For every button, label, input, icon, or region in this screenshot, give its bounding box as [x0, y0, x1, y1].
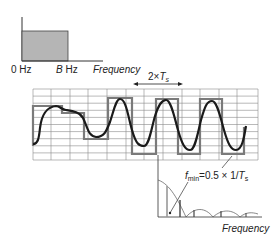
bottom-frequency-label: Frequency	[222, 223, 270, 234]
period-arrow-right-head	[178, 82, 183, 86]
fmin-label: fmin=0.5 × 1/Ts	[185, 170, 249, 182]
period-marker: 2×Ts	[133, 71, 183, 86]
sinc-lobe-2	[186, 210, 213, 218]
waveform-grid	[33, 89, 258, 160]
bottom-spectrum: Frequency	[158, 155, 270, 234]
sinc-lobe-3	[213, 211, 240, 217]
aliasing-diagram: 0 Hz B Hz Frequency 2×Ts fmin=0.5 × 1/Ts…	[0, 0, 280, 244]
top-frequency-label: Frequency	[93, 64, 141, 75]
top-spectrum: 0 Hz B Hz Frequency	[11, 17, 141, 75]
b-hz-label: B Hz	[56, 64, 78, 75]
sinc-main-lobe	[158, 180, 186, 217]
fmin-pointer-dot	[169, 212, 171, 214]
period-arrow-left-head	[133, 82, 138, 86]
fmin-pointer-upper	[222, 156, 232, 168]
fmin-pointer-lower	[170, 182, 188, 213]
bandwidth-rect	[22, 31, 68, 61]
sinc-lobe-4	[240, 213, 258, 217]
zero-hz-label: 0 Hz	[11, 64, 32, 75]
period-label: 2×Ts	[148, 71, 170, 83]
fmin-annotation: fmin=0.5 × 1/Ts	[169, 156, 249, 214]
